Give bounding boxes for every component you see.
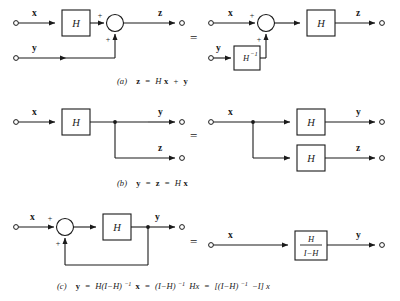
caption-a-tag: (a) (117, 76, 127, 86)
caption-a-vec-y: y (184, 76, 189, 86)
row-b-right-block-h-bottom-label: H (306, 153, 316, 164)
row-a-right-label-z: z (356, 8, 361, 18)
caption-a-plus: + (174, 76, 179, 86)
caption-c-term5: −I] x (252, 281, 270, 291)
row-b-right-label-y: y (356, 107, 361, 117)
row-a-right-label-y: y (216, 43, 221, 53)
block-diagram-figure: x H + z y + = x + H (0, 0, 400, 301)
row-a-right-input-y-terminal (209, 56, 214, 61)
caption-b-eq1: = (146, 178, 151, 188)
caption-a-lhs: z (136, 76, 140, 86)
row-b-left-block-h-label: H (71, 117, 81, 128)
row-a-left-output-z-terminal (180, 21, 185, 26)
row-a-left-sign-top: + (98, 11, 103, 20)
row-a-right-summing-junction (258, 15, 275, 32)
row-c-left-summing-junction (57, 219, 74, 236)
row-b-right-output-y-terminal (380, 120, 385, 125)
row-b-left-output-y-terminal (180, 120, 185, 125)
row-c-right-label-x: x (228, 230, 233, 240)
row-c-left-sign-bottom: + (56, 239, 61, 248)
caption-c-term2: (I−H) (155, 281, 176, 291)
caption-c-eq2: = (145, 281, 150, 291)
row-c-right-output-y-terminal (380, 243, 385, 248)
row-c-right-block-denominator: I−H (303, 248, 320, 258)
caption-c-sup1: −1 (124, 280, 131, 287)
row-b-right-diagram: x H y H z (209, 107, 385, 171)
row-b-left-output-z-terminal (180, 156, 185, 161)
row-a-left-label-y: y (32, 43, 37, 53)
row-b-right-label-x: x (228, 107, 233, 117)
row-a-left-input-y-terminal (14, 56, 19, 61)
row-a-equals-sign: = (190, 30, 197, 45)
diagram-canvas: x H + z y + = x + H (0, 0, 400, 301)
caption-c-lhs: y (76, 281, 81, 291)
row-c-left-sign-top: + (48, 214, 53, 223)
caption-c: (c) y = H(I−H) −1 x = (I−H) −1 Hx = [(I−… (57, 278, 270, 291)
caption-b-eq2: = (165, 178, 170, 188)
row-b-right-output-z-terminal (380, 156, 385, 161)
row-c-right-block-numerator: H (307, 234, 315, 244)
svg-text:(c) y =: (c) y = H(I−H) −1 x = (I−H) −1 Hx = [(I−… (57, 278, 270, 291)
svg-text:(a) z =: (a) z = H x + y (117, 76, 189, 86)
row-c-left-label-x: x (30, 212, 35, 222)
row-b-equals-sign: = (190, 128, 197, 143)
caption-c-vec-x1: x (136, 281, 141, 291)
caption-b-mid: z (156, 178, 160, 188)
row-a-right-block-h-inverse-label: H (242, 53, 250, 63)
row-c-left-output-y-terminal (180, 225, 185, 230)
caption-a-matrix-h: H (154, 76, 162, 86)
caption-c-tag: (c) (57, 281, 67, 291)
caption-c-term4: [(I−H) (214, 281, 238, 291)
caption-a-eq: = (145, 76, 150, 86)
caption-c-sup3: −1 (241, 280, 248, 287)
row-a-right-input-x-terminal (209, 21, 214, 26)
row-b-left-diagram: x H y z (14, 107, 185, 160)
caption-c-sup2: −1 (178, 280, 185, 287)
row-a-left-summing-junction (107, 15, 124, 32)
row-c-equals-sign: = (190, 234, 197, 249)
row-c-right-input-x-terminal (209, 243, 214, 248)
row-c-right-diagram: x H I−H y (209, 230, 385, 260)
row-a-right-block-h-label: H (316, 18, 326, 29)
caption-c-term1: H(I−H) (94, 281, 122, 291)
row-a-right-output-z-terminal (380, 21, 385, 26)
svg-text:(b) y =: (b) y = z = H x (117, 178, 189, 188)
row-a-right-diagram: x + H z y H −1 + (209, 8, 385, 70)
row-b-right-block-h-top-label: H (306, 117, 316, 128)
row-a-left-sign-bottom: + (106, 35, 111, 44)
row-a-right-label-x: x (228, 8, 233, 18)
row-a-right-sign-bottom: + (257, 35, 262, 44)
row-a-left-block-h-label: H (71, 18, 81, 29)
caption-c-eq3: = (204, 281, 209, 291)
row-a-left-label-x: x (32, 8, 37, 18)
row-b-left-input-x-terminal (14, 120, 19, 125)
caption-b-lhs: y (136, 178, 141, 188)
row-a-left-diagram: x H + z y + (14, 8, 185, 60)
row-b-right-label-z: z (356, 143, 361, 153)
row-c-right-label-y: y (356, 230, 361, 240)
caption-a: (a) z = H x + y (117, 76, 189, 86)
caption-b-vec-x: x (184, 178, 189, 188)
caption-c-eq1: = (85, 281, 90, 291)
caption-c-term3: Hx (188, 281, 199, 291)
row-a-right-sign-top: + (250, 11, 255, 20)
row-b-left-label-y: y (158, 107, 163, 117)
row-b-right-input-x-terminal (209, 120, 214, 125)
row-c-left-block-h-label: H (112, 222, 122, 233)
row-c-left-diagram: x + H y + (14, 212, 185, 265)
row-c-left-label-y: y (155, 212, 160, 222)
row-a-left-label-z: z (158, 8, 163, 18)
caption-b-matrix-h: H (174, 178, 182, 188)
row-c-left-input-x-terminal (14, 225, 19, 230)
row-b-left-label-x: x (32, 107, 37, 117)
caption-b: (b) y = z = H x (117, 178, 189, 188)
row-a-left-input-x-terminal (14, 21, 19, 26)
row-a-right-block-h-inverse-exponent: −1 (250, 50, 258, 57)
caption-a-vec-x: x (164, 76, 169, 86)
caption-b-tag: (b) (117, 178, 127, 188)
row-b-left-label-z: z (158, 143, 163, 153)
